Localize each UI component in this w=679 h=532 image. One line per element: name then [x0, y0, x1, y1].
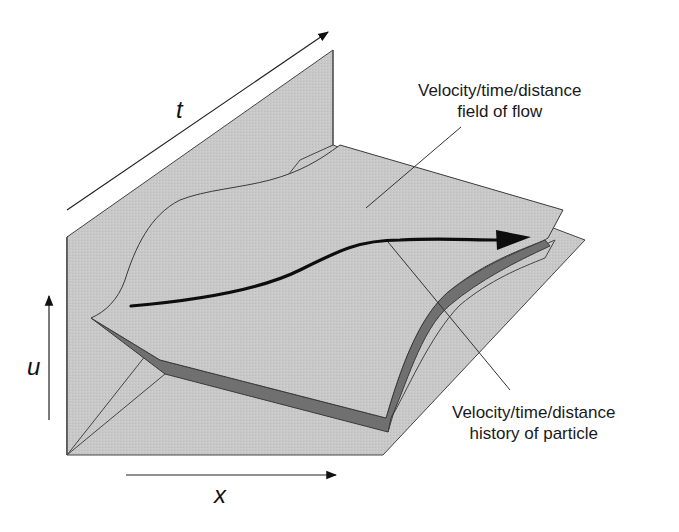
history-annotation-line1: Velocity/time/distance: [452, 402, 615, 423]
x-axis-label: x: [214, 483, 226, 507]
particle-history-annotation: Velocity/time/distance history of partic…: [452, 402, 615, 444]
diagram-canvas: t u x Velocity/time/distance field of fl…: [0, 0, 679, 532]
u-axis-label: u: [27, 355, 40, 379]
t-axis-label: t: [176, 98, 183, 122]
field-of-flow-annotation: Velocity/time/distance field of flow: [418, 80, 581, 122]
field-annotation-line2: field of flow: [418, 101, 581, 122]
history-annotation-line2: history of particle: [452, 423, 615, 444]
field-annotation-line1: Velocity/time/distance: [418, 80, 581, 101]
